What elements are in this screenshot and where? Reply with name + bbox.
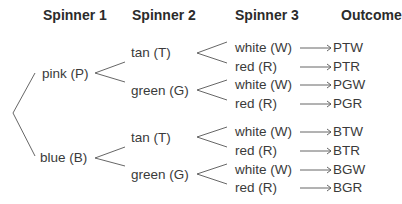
outcome-pgw: PGW	[333, 77, 365, 93]
arrow-icons	[300, 45, 331, 191]
spinner2-tan: tan (T)	[131, 45, 171, 61]
header-spinner2: Spinner 2	[132, 7, 196, 23]
outcome-btr: BTR	[333, 143, 360, 159]
spinner1-pink: pink (P)	[42, 66, 89, 82]
spinner3-red: red (R)	[235, 96, 277, 112]
spinner2-green: green (G)	[131, 83, 189, 99]
spinner3-white: white (W)	[235, 124, 292, 140]
outcome-pgr: PGR	[333, 96, 362, 112]
spinner1-blue: blue (B)	[40, 150, 87, 166]
spinner3-red: red (R)	[235, 143, 277, 159]
header-spinner3: Spinner 3	[235, 7, 299, 23]
spinner3-red: red (R)	[235, 180, 277, 196]
outcome-ptw: PTW	[333, 40, 363, 56]
branch-root-blue	[13, 113, 35, 156]
spinner2-green: green (G)	[131, 167, 189, 183]
spinner3-white: white (W)	[235, 40, 292, 56]
spinner3-white: white (W)	[235, 77, 292, 93]
outcome-bgw: BGW	[333, 162, 365, 178]
outcome-btw: BTW	[333, 124, 363, 140]
branch-root-pink	[13, 73, 35, 113]
header-outcome: Outcome	[341, 7, 402, 23]
spinner3-red: red (R)	[235, 59, 277, 75]
spinner2-tan: tan (T)	[131, 130, 171, 146]
outcome-ptr: PTR	[333, 59, 360, 75]
header-spinner1: Spinner 1	[43, 7, 107, 23]
spinner3-white: white (W)	[235, 162, 292, 178]
outcome-bgr: BGR	[333, 180, 362, 196]
